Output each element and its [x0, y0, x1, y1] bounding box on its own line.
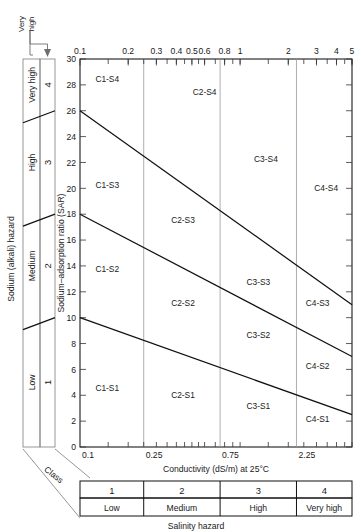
y-tick-label: 8	[71, 339, 76, 349]
salinity-hazard-title: Salinity hazard	[168, 521, 225, 531]
sodium-class-number: 3	[42, 160, 53, 165]
x-axis-title: Conductivity (dS/m) at 25°C	[163, 464, 269, 474]
class-cell-label: C4-S3	[306, 298, 330, 308]
y-tick-label: 4	[71, 390, 76, 400]
class-cell-label: C2-S4	[193, 87, 217, 97]
class-cell-label: C3-S3	[246, 277, 270, 287]
sodium-class-word: Very high	[27, 67, 37, 103]
class-cell-label: C1-S1	[95, 383, 119, 393]
top-tick-label: 5	[350, 46, 355, 56]
very-high-callout-line: high	[27, 16, 36, 31]
y-tick-label: 16	[66, 235, 76, 245]
sodium-class-separator-1	[23, 318, 55, 330]
y-tick-label: 18	[66, 209, 76, 219]
salinity-class-number: 2	[179, 485, 184, 496]
y-tick-label: 24	[66, 132, 76, 142]
top-tick-label: 0.8	[219, 46, 231, 56]
salinity-class-number: 3	[256, 485, 261, 496]
class-cell-label: C2-S1	[171, 390, 195, 400]
class-cell-label: C4-S1	[306, 414, 330, 424]
y-tick-label: 26	[66, 106, 76, 116]
sodium-class-separator-2	[23, 214, 55, 226]
top-tick-label: 0.6	[199, 46, 211, 56]
sodium-class-word: Low	[27, 374, 37, 391]
class-connector-lower	[23, 449, 80, 518]
y-tick-label: 30	[66, 54, 76, 64]
salinity-class-word: High	[249, 503, 267, 513]
very-high-callout-line: Very	[17, 16, 26, 32]
sodium-class-separator-3	[23, 111, 55, 123]
bottom-tick-label: 0.25	[146, 450, 163, 460]
y-tick-label: 2	[71, 416, 76, 426]
class-cell-label: C1-S2	[95, 264, 119, 274]
y-tick-label: 14	[66, 261, 76, 271]
salinity-class-number: 4	[322, 485, 327, 496]
class-cell-label: C3-S4	[254, 154, 278, 164]
top-tick-label: 3	[314, 46, 319, 56]
sodium-class-number: 1	[42, 380, 53, 385]
y-tick-label: 6	[71, 365, 76, 375]
top-tick-label: 4	[334, 46, 339, 56]
salinity-class-number-row	[80, 481, 352, 498]
plot-frame	[80, 59, 352, 447]
class-cell-label: C2-S2	[171, 298, 195, 308]
class-cell-label: C4-S4	[314, 183, 338, 193]
sodium-boundary-line-1	[80, 111, 352, 305]
top-tick-label: 1	[238, 46, 243, 56]
bottom-tick-label: 0.75	[222, 450, 239, 460]
sodium-class-number-column	[40, 59, 55, 447]
y-tick-label: 28	[66, 80, 76, 90]
class-cell-label: C3-S2	[246, 330, 270, 340]
sodium-hazard-title: Sodium (alkali) hazard	[6, 216, 16, 302]
salinity-class-word: Low	[104, 503, 121, 513]
class-label: Class	[42, 464, 65, 485]
very-high-arrow-line	[30, 30, 33, 55]
class-cell-label: C4-S2	[306, 361, 330, 371]
top-tick-label: 0.4	[170, 46, 182, 56]
sodium-boundary-line-2	[80, 214, 352, 356]
y-tick-label: 10	[66, 313, 76, 323]
sodium-class-word: High	[27, 153, 37, 171]
bottom-tick-label: 2.25	[298, 450, 315, 460]
sodium-class-number: 2	[42, 263, 53, 268]
salinity-class-number: 1	[109, 485, 114, 496]
y-tick-label: 12	[66, 287, 76, 297]
top-tick-label: 2	[286, 46, 291, 56]
top-tick-label: 0.5	[186, 46, 198, 56]
y-axis-title: Sodium–adsorption ratio (SAR)	[56, 193, 66, 312]
salinity-sodium-hazard-diagram: 0.10.20.30.40.50.60.8123450.10.250.752.2…	[0, 0, 361, 532]
class-cell-label: C1-S4	[95, 74, 119, 84]
class-cell-label: C2-S3	[171, 215, 195, 225]
salinity-class-word: Medium	[167, 503, 198, 513]
diagram-svg: 0.10.20.30.40.50.60.8123450.10.250.752.2…	[0, 0, 361, 532]
top-tick-label: 0.2	[122, 46, 134, 56]
very-high-callout: Veryhigh	[17, 16, 36, 32]
class-cell-label: C1-S3	[95, 180, 119, 190]
top-tick-label: 0.3	[150, 46, 162, 56]
y-tick-label: 22	[66, 158, 76, 168]
sodium-class-word: Medium	[27, 251, 37, 282]
bottom-tick-label: 0.1	[82, 450, 94, 460]
class-cell-label: C3-S1	[246, 401, 270, 411]
y-tick-label: 0	[71, 442, 76, 452]
sodium-class-number: 4	[42, 82, 53, 87]
y-tick-label: 20	[66, 184, 76, 194]
salinity-class-word: Very high	[306, 503, 342, 513]
